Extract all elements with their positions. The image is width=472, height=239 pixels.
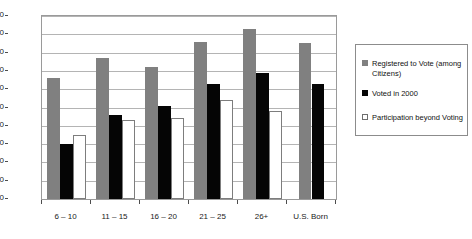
legend-item: Participation beyond Voting xyxy=(362,113,463,123)
bar xyxy=(60,144,73,199)
plot-area xyxy=(41,15,337,200)
gray-swatch xyxy=(362,60,368,66)
legend-item: Registered to Vote (among Citizens) xyxy=(362,59,463,78)
bar xyxy=(145,67,158,199)
x-axis-tick-mark xyxy=(188,200,189,204)
y-axis-tick-mark xyxy=(5,125,8,126)
bar xyxy=(312,84,325,199)
bar-group xyxy=(238,16,287,199)
bar xyxy=(122,120,135,199)
bar xyxy=(299,43,312,199)
x-axis-tick-mark xyxy=(335,200,336,204)
bar-group xyxy=(91,16,140,199)
y-axis-tick-label: 20 xyxy=(0,157,4,165)
x-axis-tick-mark xyxy=(286,200,287,204)
bar xyxy=(269,111,282,199)
y-axis-tick-mark xyxy=(5,198,8,199)
bar-group xyxy=(140,16,189,199)
bar xyxy=(47,78,60,199)
bar xyxy=(220,100,233,199)
bar xyxy=(194,42,207,199)
bar xyxy=(96,58,109,199)
y-axis-tick-mark xyxy=(5,107,8,108)
chart-legend: Registered to Vote (among Citizens)Voted… xyxy=(355,44,468,136)
bar xyxy=(171,118,184,199)
y-axis-tick-label: 40 xyxy=(0,121,4,129)
x-axis-tick-mark xyxy=(139,200,140,204)
y-axis-tick-label: 90 xyxy=(0,29,4,37)
legend-item-label: Participation beyond Voting xyxy=(372,113,463,123)
chart-container: 0102030405060708090100 6 – 1011 – 1516 –… xyxy=(0,0,472,239)
bar xyxy=(256,73,269,199)
bars-layer xyxy=(42,16,336,199)
bar xyxy=(207,84,220,199)
y-axis-tick-label: 80 xyxy=(0,48,4,56)
x-axis: 6 – 1011 – 1516 – 2021 – 2526+U.S. Born xyxy=(41,200,337,239)
x-axis-tick-mark xyxy=(41,200,42,204)
y-axis-tick-mark xyxy=(5,52,8,53)
y-axis-tick-mark xyxy=(5,15,8,16)
bar-group xyxy=(189,16,238,199)
y-axis-tick-label: 50 xyxy=(0,103,4,111)
y-axis-tick-label: 60 xyxy=(0,84,4,92)
bar-group xyxy=(287,16,336,199)
bar xyxy=(109,115,122,199)
y-axis-tick-label: 100 xyxy=(0,11,4,19)
y-axis-tick-label: 70 xyxy=(0,66,4,74)
x-axis-tick-label: U.S. Born xyxy=(274,212,348,221)
bar xyxy=(73,135,86,199)
bar xyxy=(158,106,171,199)
y-axis-tick-label: 10 xyxy=(0,176,4,184)
y-axis-tick-mark xyxy=(5,143,8,144)
x-axis-tick-mark xyxy=(90,200,91,204)
y-axis-tick-mark xyxy=(5,33,8,34)
white-swatch xyxy=(362,114,368,120)
y-axis-tick-mark xyxy=(5,88,8,89)
y-axis-tick-mark xyxy=(5,70,8,71)
legend-item-label: Registered to Vote (among Citizens) xyxy=(372,59,463,78)
black-swatch xyxy=(362,90,368,96)
y-axis-tick-mark xyxy=(5,161,8,162)
y-axis-tick-label: 0 xyxy=(0,194,4,202)
x-axis-tick-mark xyxy=(237,200,238,204)
bar-group xyxy=(42,16,91,199)
legend-item-label: Voted in 2000 xyxy=(372,89,418,99)
y-axis-tick-mark xyxy=(5,180,8,181)
y-axis: 0102030405060708090100 xyxy=(0,0,41,215)
y-axis-tick-label: 30 xyxy=(0,139,4,147)
legend-item: Voted in 2000 xyxy=(362,89,463,99)
bar xyxy=(243,29,256,199)
